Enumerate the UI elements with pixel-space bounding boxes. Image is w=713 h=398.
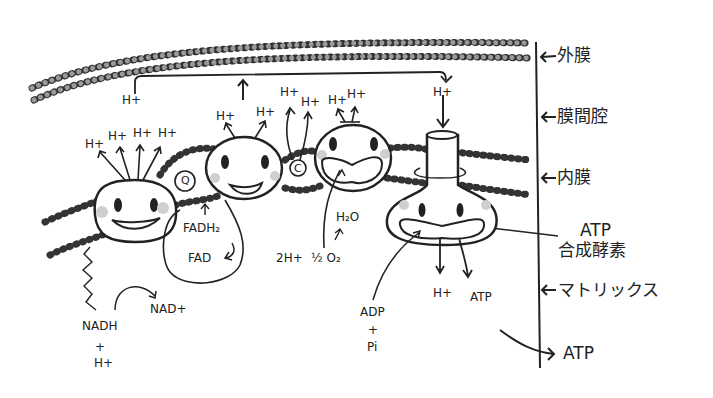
- label-atp-out: ATP: [563, 345, 594, 362]
- label-proton: H+: [108, 130, 127, 142]
- label-atp-synthase-line2: 合成酵素: [558, 242, 626, 259]
- label-plus: +: [95, 341, 105, 353]
- label-outer-membrane: 外膜: [557, 47, 591, 64]
- label-intermembrane-space: 膜間腔: [557, 108, 608, 125]
- nadh-squiggle: [83, 247, 96, 310]
- label-nad: NAD+: [150, 303, 186, 315]
- label-half-o2: ½ O₂: [311, 252, 341, 264]
- label-proton: H+: [433, 86, 452, 98]
- label-c: C: [294, 163, 302, 174]
- label-proton: H+: [133, 127, 152, 139]
- label-fadh2: FADH₂: [183, 222, 220, 234]
- complex-i: [95, 145, 176, 242]
- label-proton: H+: [347, 88, 366, 100]
- label-proton: H+: [301, 96, 320, 108]
- label-proton-matrix: H+: [433, 287, 452, 299]
- label-proton-nadh: H+: [94, 357, 113, 369]
- atp-synthase: [373, 95, 497, 300]
- label-proton: H+: [85, 138, 104, 150]
- label-inner-membrane: 内膜: [557, 169, 591, 186]
- label-proton: H+: [256, 106, 275, 118]
- label-h2o: H₂O: [336, 211, 359, 223]
- label-atp-matrix: ATP: [470, 291, 492, 303]
- label-fad: FAD: [188, 252, 211, 264]
- label-plus-pi: +: [368, 324, 378, 336]
- label-proton: H+: [280, 86, 299, 98]
- complex-iv: [315, 107, 391, 248]
- label-q: Q: [181, 175, 190, 186]
- label-pi: Pi: [367, 341, 377, 353]
- diagram-canvas: [0, 0, 713, 398]
- label-adp: ADP: [360, 306, 385, 318]
- compartment-axis: [490, 42, 558, 368]
- label-matrix: マトリックス: [558, 282, 659, 299]
- label-proton: H+: [328, 94, 347, 106]
- label-atp-synthase-line1: ATP: [580, 222, 611, 239]
- label-proton: H+: [158, 127, 177, 139]
- label-2h: 2H+: [276, 252, 303, 264]
- label-proton: H+: [122, 94, 141, 106]
- label-nadh: NADH: [82, 320, 117, 332]
- label-proton: H+: [216, 110, 235, 122]
